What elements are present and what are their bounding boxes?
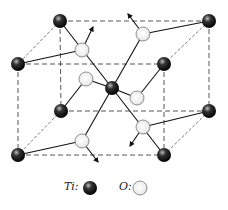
oxygen-atom (136, 27, 150, 41)
titanium-atom (157, 57, 171, 71)
legend-oxygen-label: O: (119, 180, 132, 193)
titanium-atom (202, 104, 216, 118)
titanium-atom (11, 57, 25, 71)
oxygen-atom (79, 72, 93, 86)
oxygen-atom (130, 91, 144, 105)
oxygen-atom (75, 43, 89, 57)
legend-titanium-label: Ti: (64, 180, 79, 193)
titanium-atom (11, 148, 25, 162)
titanium-atom (202, 14, 216, 28)
oxygen-atom (136, 120, 150, 134)
titanium-atom (53, 14, 67, 28)
titanium-atoms (11, 14, 216, 162)
legend: Ti: O: (0, 176, 228, 198)
titanium-atom (157, 148, 171, 162)
titanium-atom (54, 104, 68, 118)
oxygen-atom (75, 134, 89, 148)
titanium-atom-center (105, 81, 119, 95)
